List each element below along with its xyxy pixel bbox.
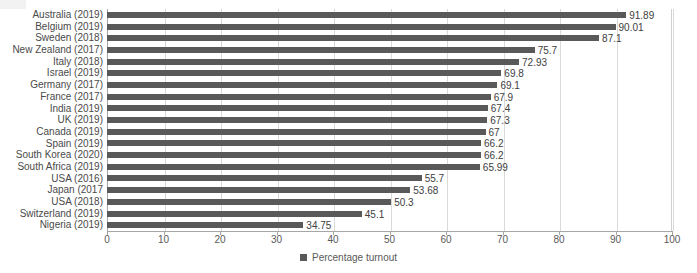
bar-value-label: 45.1 bbox=[362, 208, 384, 219]
y-axis-label: Canada (2019) bbox=[0, 126, 103, 138]
bar bbox=[107, 187, 410, 193]
bar-row: 67.4 bbox=[107, 103, 672, 115]
bar-row: 67.9 bbox=[107, 91, 672, 103]
bar-value-label: 69.8 bbox=[501, 68, 523, 79]
bar-row: 55.7 bbox=[107, 173, 672, 185]
bar-row: 75.7 bbox=[107, 44, 672, 56]
bar bbox=[107, 140, 481, 146]
chart-legend: Percentage turnout bbox=[0, 252, 697, 263]
y-axis-label: Italy (2018) bbox=[0, 56, 103, 68]
bar-value-label: 67.4 bbox=[488, 103, 510, 114]
x-axis-tick-label: 40 bbox=[327, 234, 338, 245]
bar bbox=[107, 117, 487, 123]
bar-value-label: 87.1 bbox=[599, 33, 621, 44]
bar-value-label: 72.93 bbox=[519, 56, 547, 67]
y-axis-label: Australia (2019) bbox=[0, 9, 103, 21]
y-axis-label: Switzerland (2019) bbox=[0, 208, 103, 220]
legend-label-percentage-turnout: Percentage turnout bbox=[312, 252, 397, 263]
bar bbox=[107, 24, 616, 30]
y-axis-label: New Zealand (2017) bbox=[0, 44, 103, 56]
bar-rows: 91.8990.0187.175.772.9369.869.167.967.46… bbox=[107, 9, 672, 231]
y-axis-label: South Africa (2019) bbox=[0, 161, 103, 173]
bar bbox=[107, 35, 599, 41]
y-axis-label: Israel (2019) bbox=[0, 67, 103, 79]
y-axis-label: South Korea (2020) bbox=[0, 149, 103, 161]
bar bbox=[107, 70, 501, 76]
y-axis-label: UK (2019) bbox=[0, 114, 103, 126]
y-axis-label: USA (2016) bbox=[0, 173, 103, 185]
bar-row: 87.1 bbox=[107, 32, 672, 44]
bar-row: 66.2 bbox=[107, 138, 672, 150]
bar-row: 67.3 bbox=[107, 114, 672, 126]
bar bbox=[107, 94, 491, 100]
y-axis-label: Germany (2017) bbox=[0, 79, 103, 91]
bar-value-label: 75.7 bbox=[535, 44, 557, 55]
bar-row: 69.1 bbox=[107, 79, 672, 91]
bar bbox=[107, 152, 481, 158]
bar bbox=[107, 12, 626, 18]
x-axis-tick-label: 70 bbox=[497, 234, 508, 245]
bar-value-label: 67 bbox=[486, 126, 500, 137]
bar-value-label: 55.7 bbox=[422, 173, 444, 184]
legend-swatch-percentage-turnout bbox=[300, 254, 307, 261]
bar-value-label: 66.2 bbox=[481, 150, 503, 161]
bar-chart: Australia (2019)Belgium (2019)Sweden (20… bbox=[0, 0, 697, 273]
bar-row: 66.2 bbox=[107, 149, 672, 161]
bar bbox=[107, 164, 480, 170]
bar-value-label: 69.1 bbox=[497, 79, 519, 90]
x-axis-tick-label: 20 bbox=[214, 234, 225, 245]
y-axis-label: Spain (2019) bbox=[0, 138, 103, 150]
bar-value-label: 53.68 bbox=[410, 185, 438, 196]
bar-row: 53.68 bbox=[107, 184, 672, 196]
bar-row: 90.01 bbox=[107, 21, 672, 33]
bar bbox=[107, 47, 535, 53]
x-axis-tick-label: 0 bbox=[104, 234, 110, 245]
bar bbox=[107, 82, 497, 88]
bar bbox=[107, 59, 519, 65]
x-axis-tick-label: 80 bbox=[553, 234, 564, 245]
bar bbox=[107, 211, 362, 217]
y-axis-category-labels: Australia (2019)Belgium (2019)Sweden (20… bbox=[0, 9, 103, 231]
bar-row: 67 bbox=[107, 126, 672, 138]
bar-row: 91.89 bbox=[107, 9, 672, 21]
bar bbox=[107, 105, 488, 111]
bar-value-label: 67.3 bbox=[487, 115, 509, 126]
x-axis-tick-label: 100 bbox=[664, 234, 681, 245]
y-axis-label: France (2017) bbox=[0, 91, 103, 103]
bar-row: 72.93 bbox=[107, 56, 672, 68]
bar-value-label: 91.89 bbox=[626, 9, 654, 20]
bar bbox=[107, 175, 422, 181]
y-axis-label: India (2019) bbox=[0, 103, 103, 115]
x-axis-tick-label: 60 bbox=[440, 234, 451, 245]
x-axis-tick-label: 30 bbox=[271, 234, 282, 245]
x-axis-tick-label: 10 bbox=[158, 234, 169, 245]
bar-value-label: 67.9 bbox=[491, 91, 513, 102]
bar bbox=[107, 129, 486, 135]
bar-row: 45.1 bbox=[107, 208, 672, 220]
corner-artifact bbox=[0, 0, 26, 9]
bar-row: 34.75 bbox=[107, 219, 672, 231]
y-axis-label: Japan (2017 bbox=[0, 184, 103, 196]
bar-value-label: 90.01 bbox=[616, 21, 644, 32]
bar-value-label: 65.99 bbox=[480, 161, 508, 172]
bar-row: 69.8 bbox=[107, 67, 672, 79]
bar-value-label: 50.3 bbox=[391, 196, 413, 207]
y-axis-label: Nigeria (2019) bbox=[0, 219, 103, 231]
y-axis-label: USA (2018) bbox=[0, 196, 103, 208]
bar-value-label: 66.2 bbox=[481, 138, 503, 149]
bar-row: 50.3 bbox=[107, 196, 672, 208]
bar bbox=[107, 199, 391, 205]
bar bbox=[107, 222, 303, 228]
bar-row: 65.99 bbox=[107, 161, 672, 173]
y-axis-label: Sweden (2018) bbox=[0, 32, 103, 44]
bar-value-label: 34.75 bbox=[303, 220, 331, 231]
y-axis-label: Belgium (2019) bbox=[0, 21, 103, 33]
x-axis-tick-label: 90 bbox=[610, 234, 621, 245]
x-axis-tick-label: 50 bbox=[384, 234, 395, 245]
gridline-100 bbox=[673, 9, 674, 231]
